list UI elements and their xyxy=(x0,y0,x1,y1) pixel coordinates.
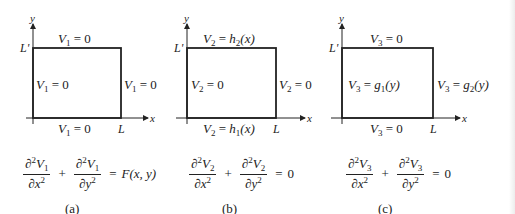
equals: = xyxy=(453,77,460,92)
equals: = xyxy=(386,121,393,136)
var: V xyxy=(36,156,44,171)
plus: + xyxy=(58,166,65,182)
var: V xyxy=(191,77,199,92)
var: V xyxy=(124,77,132,92)
equals: = xyxy=(140,77,147,92)
panel-caption: (a) xyxy=(65,201,79,214)
var-sub: 2 xyxy=(261,163,266,173)
var: V xyxy=(202,156,210,171)
d2-dy2-fraction: ∂2V3 ∂y2 xyxy=(397,156,424,191)
top-boundary-condition: V3 = 0 xyxy=(370,32,403,48)
denominator: ∂y xyxy=(79,176,91,191)
equals: = xyxy=(295,77,302,92)
var-sub: 3 xyxy=(378,38,383,48)
y-extent-label: L' xyxy=(329,41,338,56)
var: V xyxy=(87,156,95,171)
equation-rhs: F(x, y) xyxy=(121,166,156,182)
function-arg: (x) xyxy=(240,31,254,46)
var-sub: 1 xyxy=(66,128,71,138)
x-extent-label: L xyxy=(273,122,280,137)
value: 0 xyxy=(84,121,91,136)
y-axis-label: y xyxy=(184,12,189,24)
equation-rhs: 0 xyxy=(444,166,451,182)
equals: = xyxy=(386,31,393,46)
y-axis-label: y xyxy=(30,12,35,24)
denominator: ∂x xyxy=(194,176,206,191)
var: V xyxy=(36,77,44,92)
value: 0 xyxy=(62,77,69,92)
var-sub: 3 xyxy=(367,163,372,173)
pde-equation: ∂2V3 ∂x2 + ∂2V3 ∂y2 = 0 xyxy=(343,156,451,191)
panel-caption: (b) xyxy=(222,201,237,214)
d2-dx2-fraction: ∂2V3 ∂x2 xyxy=(346,156,373,191)
d2-dx2-fraction: ∂2V2 ∂x2 xyxy=(189,156,216,191)
var-sub: 2 xyxy=(199,84,204,94)
d2-dy2-fraction: ∂2V1 ∂y2 xyxy=(74,156,101,191)
var: V xyxy=(348,77,356,92)
var-sub: 2 xyxy=(211,38,216,48)
var: V xyxy=(359,156,367,171)
var: V xyxy=(58,121,66,136)
d2-dx2-fraction: ∂2V1 ∂x2 xyxy=(23,156,50,191)
pde-equation: ∂2V2 ∂x2 + ∂2V2 ∂y2 = 0 xyxy=(186,156,294,191)
bottom-boundary-condition: V1 = 0 xyxy=(58,122,91,138)
equals: = xyxy=(207,77,214,92)
d2-dy2-fraction: ∂2V2 ∂y2 xyxy=(240,156,267,191)
var-sub: 1 xyxy=(66,38,71,48)
top-boundary-condition: V1 = 0 xyxy=(58,32,91,48)
denominator: ∂x xyxy=(28,176,40,191)
x-extent-label: L xyxy=(118,122,125,137)
var: V xyxy=(370,31,378,46)
plus: + xyxy=(224,166,231,182)
denominator: ∂y xyxy=(245,176,257,191)
x-axis-label: x xyxy=(150,112,155,124)
value: 0 xyxy=(150,77,157,92)
x-extent-label: L xyxy=(430,122,437,137)
var-sub: 3 xyxy=(418,163,423,173)
y-extent-label: L' xyxy=(20,41,29,56)
left-boundary-condition: V3 = g1(y) xyxy=(348,78,400,94)
function-arg: (y) xyxy=(474,77,488,92)
equals: = xyxy=(219,121,226,136)
var-sub: 2 xyxy=(211,128,216,138)
var: V xyxy=(58,31,66,46)
right-boundary-condition: V3 = g2(y) xyxy=(437,78,489,94)
bottom-boundary-condition: V2 = h1(x) xyxy=(203,122,255,138)
pde-equation: ∂2V1 ∂x2 + ∂2V1 ∂y2 = F(x, y) xyxy=(20,156,156,191)
var: V xyxy=(370,121,378,136)
y-extent-label: L' xyxy=(174,41,183,56)
var: V xyxy=(279,77,287,92)
var-sub: 2 xyxy=(287,84,292,94)
var-sub: 1 xyxy=(132,84,137,94)
denominator: ∂x xyxy=(351,176,363,191)
plus: + xyxy=(381,166,388,182)
var-sub: 1 xyxy=(44,163,49,173)
var-sub: 2 xyxy=(210,163,215,173)
var-sub: 1 xyxy=(95,163,100,173)
equals: = xyxy=(74,31,81,46)
var-sub: 3 xyxy=(378,128,383,138)
var-sub: 3 xyxy=(356,84,361,94)
right-boundary-condition: V1 = 0 xyxy=(124,78,157,94)
panel-caption: (c) xyxy=(378,201,392,214)
var-sub: 3 xyxy=(445,84,450,94)
left-boundary-condition: V2 = 0 xyxy=(191,78,224,94)
equals: = xyxy=(52,77,59,92)
value: 0 xyxy=(217,77,224,92)
denominator: ∂y xyxy=(402,176,414,191)
equals: = xyxy=(275,166,282,182)
x-axis-label: x xyxy=(307,112,312,124)
equals: = xyxy=(74,121,81,136)
var-sub: 1 xyxy=(44,84,49,94)
right-boundary-condition: V2 = 0 xyxy=(279,78,312,94)
equals: = xyxy=(219,31,226,46)
var: V xyxy=(437,77,445,92)
equals: = xyxy=(109,166,116,182)
var: V xyxy=(410,156,418,171)
value: 0 xyxy=(396,121,403,136)
equals: = xyxy=(364,77,371,92)
left-boundary-condition: V1 = 0 xyxy=(36,78,69,94)
top-boundary-condition: V2 = h2(x) xyxy=(203,32,255,48)
var: V xyxy=(253,156,261,171)
value: 0 xyxy=(305,77,312,92)
